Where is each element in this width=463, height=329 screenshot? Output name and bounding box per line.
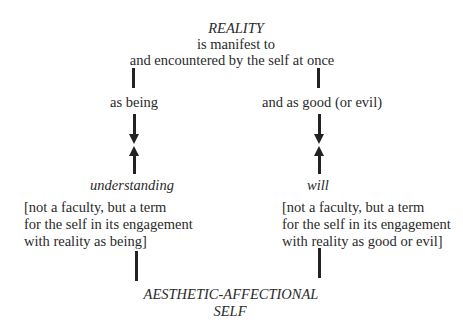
self-heading-line-2: SELF	[213, 303, 246, 319]
will-term: will	[307, 177, 329, 193]
reality-subline-1: is manifest to	[197, 36, 275, 52]
will-note-line-1: [not a faculty, but a term	[282, 199, 451, 216]
reality-subline-2: and encountered by the self at once	[130, 52, 335, 68]
understanding-note-line-3: with reality as being]	[24, 233, 193, 250]
will-note-line-2: for the self in its engagement	[282, 216, 451, 233]
right-down-arrow-icon	[313, 114, 325, 144]
left-up-arrow-icon	[128, 146, 140, 174]
will-note: [not a faculty, but a term for the self …	[282, 199, 451, 250]
reality-heading: REALITY	[208, 20, 264, 36]
right-connector-top	[317, 68, 320, 88]
self-heading-line-1: AESTHETIC-AFFECTIONAL	[144, 286, 319, 302]
left-mode-label: as being	[110, 94, 158, 110]
left-connector-bottom	[135, 251, 138, 281]
understanding-note: [not a faculty, but a term for the self …	[24, 199, 193, 250]
right-mode-label: and as good (or evil)	[262, 94, 382, 110]
right-connector-bottom	[318, 248, 321, 278]
understanding-term: understanding	[90, 177, 174, 193]
left-connector-top	[132, 68, 135, 88]
left-down-arrow-icon	[128, 114, 140, 144]
will-note-line-3: with reality as good or evil]	[282, 233, 451, 250]
right-up-arrow-icon	[313, 146, 325, 174]
understanding-note-line-2: for the self in its engagement	[24, 216, 193, 233]
understanding-note-line-1: [not a faculty, but a term	[24, 199, 193, 216]
